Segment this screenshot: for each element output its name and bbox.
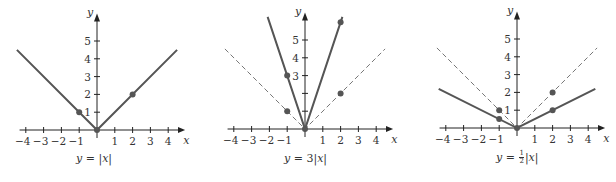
- data-point-marker: [496, 116, 502, 122]
- y-axis-arrow-icon: [514, 11, 520, 19]
- x-axis-label: x: [183, 134, 190, 147]
- data-point-marker: [284, 73, 290, 79]
- data-point-marker: [514, 125, 520, 131]
- caption-eq: =: [502, 151, 518, 164]
- x-tick-label: −1: [488, 133, 503, 145]
- caption-panel-1: y = |x|: [76, 152, 112, 165]
- caption-panel-3: y = 12|x|: [496, 150, 539, 165]
- y-tick-label: 3: [292, 70, 299, 82]
- x-tick-label: 4: [165, 135, 172, 147]
- fraction-one-half: 12: [519, 150, 523, 165]
- y-tick-label: 5: [292, 34, 299, 46]
- x-tick-label: 4: [585, 133, 592, 145]
- caption-eq: =: [82, 152, 98, 165]
- x-tick-label: −3: [33, 135, 48, 147]
- x-tick-label: 1: [111, 135, 118, 147]
- x-tick-label: 3: [147, 135, 154, 147]
- data-point-marker: [302, 126, 308, 132]
- x-tick-label: −1: [276, 134, 291, 146]
- caption-panel-2: y = 3|x|: [284, 152, 327, 165]
- x-tick-label: 2: [337, 134, 344, 146]
- x-tick-label: −2: [259, 134, 274, 146]
- y-tick-label: 5: [504, 33, 511, 45]
- y-tick-label: 2: [84, 88, 91, 100]
- data-point-marker: [550, 89, 556, 95]
- x-tick-label: 1: [319, 134, 326, 146]
- y-axis-arrow-icon: [302, 12, 308, 20]
- y-axis-arrow-icon: [94, 13, 100, 21]
- y-tick-label: 1: [504, 104, 511, 116]
- data-point-marker: [338, 19, 344, 25]
- y-tick-label: 4: [84, 53, 91, 65]
- y-tick-label: 3: [504, 69, 511, 81]
- x-tick-label: −1: [68, 135, 83, 147]
- x-tick-label: −4: [223, 134, 239, 146]
- data-point-marker: [550, 107, 556, 113]
- y-tick-label: 2: [504, 86, 511, 98]
- data-point-marker: [338, 90, 344, 96]
- x-tick-label: 2: [129, 135, 136, 147]
- y-tick-label: 1: [84, 106, 91, 118]
- x-axis-arrow-icon: [386, 126, 393, 132]
- x-tick-label: −4: [435, 133, 451, 145]
- caption-rhs: |x|: [313, 152, 327, 165]
- x-axis-arrow-icon: [178, 127, 185, 133]
- x-tick-label: 3: [355, 134, 362, 146]
- x-axis-label: x: [603, 132, 610, 145]
- y-tick-label: 5: [84, 35, 91, 47]
- x-tick-label: −3: [453, 133, 468, 145]
- x-tick-label: −2: [51, 135, 66, 147]
- y-tick-label: 4: [504, 51, 511, 63]
- caption-eq: = 3: [290, 152, 313, 165]
- x-tick-label: 3: [567, 133, 574, 145]
- data-point-marker: [496, 107, 502, 113]
- x-tick-label: 2: [549, 133, 556, 145]
- y-tick-label: 3: [84, 71, 91, 83]
- y-axis-label: y: [86, 6, 94, 19]
- data-point-marker: [76, 109, 82, 115]
- y-axis-label: y: [294, 5, 302, 18]
- x-axis-label: x: [391, 133, 398, 146]
- x-tick-label: −2: [471, 133, 486, 145]
- x-tick-label: 4: [373, 134, 380, 146]
- y-tick-label: 4: [292, 52, 299, 64]
- x-tick-label: −3: [241, 134, 256, 146]
- data-point-marker: [94, 127, 100, 133]
- data-point-marker: [284, 108, 290, 114]
- data-point-marker: [130, 91, 136, 97]
- caption-rhs: |x|: [525, 151, 539, 164]
- y-axis-label: y: [506, 4, 514, 17]
- x-tick-label: 1: [531, 133, 538, 145]
- x-tick-label: −4: [15, 135, 31, 147]
- x-axis-arrow-icon: [598, 125, 605, 131]
- caption-rhs: |x|: [98, 152, 112, 165]
